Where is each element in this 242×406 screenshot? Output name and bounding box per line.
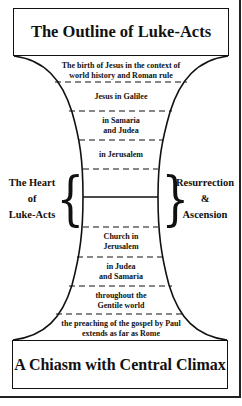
right-label: Resurrection & Ascension	[172, 175, 238, 223]
left-label: The Heart of Luke-Acts	[4, 175, 60, 223]
title-box: The Outline of Luke-Acts	[13, 8, 229, 56]
segment-gentile-world: throughout the Gentile world	[40, 291, 202, 310]
segment-galilee: Jesus in Galilee	[40, 92, 202, 102]
segment-birth: The birth of Jesus in the context of wor…	[40, 61, 202, 80]
segment-samaria-judea: in Samaria and Judea	[40, 116, 202, 135]
diagram-title: The Outline of Luke-Acts	[31, 22, 211, 42]
footer-box: A Chiasm with Central Climax	[12, 340, 228, 389]
segment-paul-rome: the preaching of the gospel by Paul exte…	[40, 319, 202, 338]
segment-judea-samaria: in Judea and Samaria	[40, 262, 202, 281]
segment-church-jerusalem: Church in Jerusalem	[40, 232, 202, 251]
segment-jerusalem: in Jerusalem	[40, 150, 202, 160]
left-brace-icon: {	[57, 170, 85, 228]
diagram-subtitle: A Chiasm with Central Climax	[14, 356, 226, 374]
